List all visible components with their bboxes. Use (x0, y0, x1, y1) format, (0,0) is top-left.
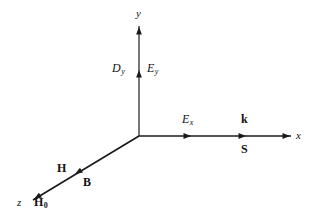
label-magnetic-flux-density: B (83, 176, 91, 188)
symbol-base: E (182, 112, 189, 126)
label-wave-vector: k (241, 113, 248, 125)
symbol-base: B (83, 175, 91, 189)
symbol-base: H (57, 161, 66, 175)
symbol-base: E (147, 61, 154, 75)
label-electric-field-x: Ex (182, 113, 193, 127)
label-electric-displacement-y: Dy (112, 62, 125, 76)
axes-canvas (0, 0, 312, 222)
symbol-base: S (241, 142, 248, 156)
label-electric-field-y: Ey (147, 62, 158, 76)
label-magnetic-field-h: H (57, 162, 66, 174)
symbol-subscript: x (190, 118, 194, 127)
arrowhead-k-s-mid (239, 133, 247, 139)
symbol-base: H (34, 195, 43, 209)
symbol-base: k (241, 112, 248, 126)
label-poynting-vector: S (241, 143, 248, 155)
arrowhead-x-axis-tip (283, 133, 291, 139)
arrowhead-ex-mid (184, 133, 192, 139)
axis-line-z (33, 136, 139, 200)
axis-label-x: x (296, 130, 301, 141)
symbol-subscript: y (155, 67, 159, 76)
arrowheads-group (33, 27, 290, 201)
symbol-subscript: y (121, 67, 125, 76)
vector-diagram-figure: yxz DyEyExkSHBH0 (0, 0, 312, 222)
symbol-subscript: 0 (44, 201, 48, 210)
arrowhead-y-axis-tip (136, 27, 142, 35)
label-static-magnetic-field: H0 (34, 196, 48, 210)
symbol-base: D (112, 61, 121, 75)
axis-lines-group (33, 26, 291, 200)
axis-label-y: y (136, 8, 141, 19)
arrowhead-ey-mid (136, 70, 142, 78)
axis-label-z: z (17, 197, 21, 208)
